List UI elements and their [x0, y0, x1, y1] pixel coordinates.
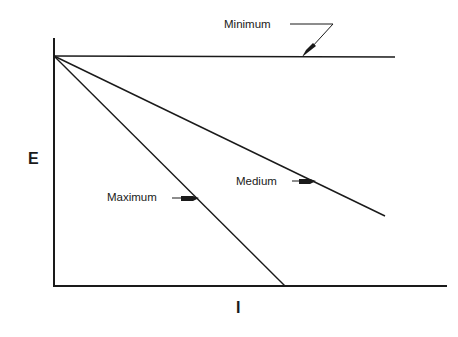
y-axis-label: E	[28, 150, 39, 167]
medium-line	[54, 56, 385, 216]
medium-arrow-icon	[299, 179, 316, 184]
minimum-leader	[290, 24, 333, 48]
regulation-chart: E I Minimum Medium Maximum	[0, 0, 458, 337]
minimum-arrow-icon	[302, 43, 316, 57]
maximum-line	[54, 56, 285, 286]
x-axis-label: I	[236, 299, 240, 316]
minimum-label: Minimum	[224, 18, 271, 30]
medium-label: Medium	[236, 175, 277, 187]
maximum-label: Maximum	[107, 191, 157, 203]
minimum-line	[54, 56, 395, 57]
